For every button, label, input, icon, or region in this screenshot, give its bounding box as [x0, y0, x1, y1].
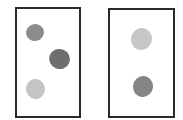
left-panel: [15, 7, 81, 118]
right-panel: [108, 8, 175, 118]
